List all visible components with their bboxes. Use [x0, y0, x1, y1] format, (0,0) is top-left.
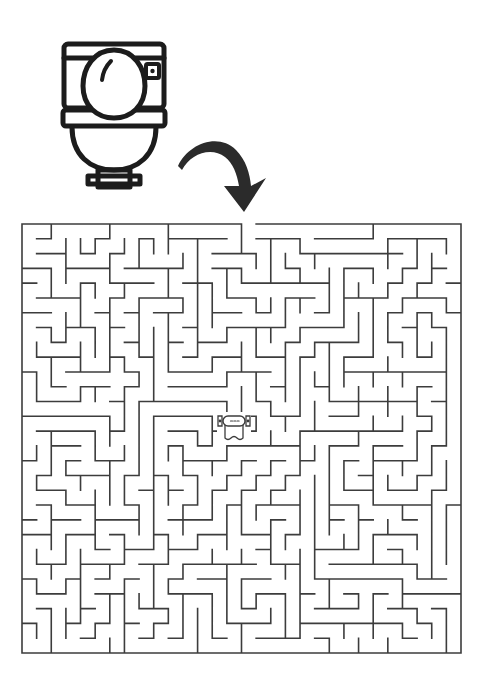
curved-arrow-body: [178, 141, 266, 212]
puzzle-page: [0, 0, 483, 681]
toilet-icon-svg: [58, 30, 170, 186]
maze-grid: [22, 224, 461, 653]
toilet-paper-icon: [217, 412, 251, 440]
toilet-paper-holder-left-dot: [219, 420, 222, 423]
toilet-lid: [83, 50, 145, 118]
toilet-bowl: [72, 127, 156, 170]
toilet-icon: [58, 30, 170, 186]
curved-arrow-svg: [176, 134, 272, 214]
curved-arrow-icon: [176, 134, 272, 214]
maze-svg: [22, 224, 461, 653]
toilet-flush-button-dot: [150, 69, 154, 73]
toilet-paper-holder-right-dot: [247, 420, 250, 423]
